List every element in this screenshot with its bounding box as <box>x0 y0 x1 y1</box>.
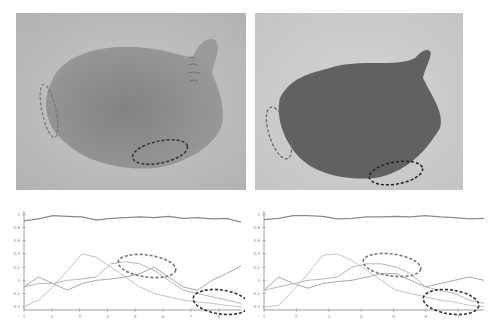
line-chart-left: 10.80.60.40.20-0.2-0.412345678 <box>10 205 245 325</box>
series-line-top <box>264 216 484 220</box>
chart-right: 10.80.60.40.20-0.2-0.41234567 <box>252 205 488 325</box>
y-tick-label: -0.2 <box>252 291 260 296</box>
series-line-series-a <box>264 254 484 307</box>
x-tick-label: 1 <box>23 314 26 319</box>
y-tick-label: 0.8 <box>14 225 21 230</box>
y-tick-label: 0.6 <box>254 238 261 243</box>
y-tick-label: -0.4 <box>12 304 20 309</box>
series-line-series-c <box>264 264 484 304</box>
photo-right-image <box>255 13 463 190</box>
line-chart-right: 10.80.60.40.20-0.2-0.41234567 <box>252 205 488 325</box>
series-line-series-b <box>264 274 484 291</box>
y-tick-label: 0 <box>257 278 260 283</box>
x-tick-label: 2 <box>295 314 298 319</box>
y-tick-label: 1 <box>17 212 20 217</box>
y-tick-label: -0.2 <box>12 291 20 296</box>
y-tick-label: 0 <box>17 278 20 283</box>
x-tick-label: 6 <box>162 314 165 319</box>
x-tick-label: 4 <box>360 314 363 319</box>
x-tick-label: 3 <box>78 314 81 319</box>
y-tick-label: 0.8 <box>254 225 261 230</box>
x-tick-label: 5 <box>134 314 137 319</box>
y-tick-label: 0.6 <box>14 238 21 243</box>
y-tick-label: -0.4 <box>252 304 260 309</box>
photo-right <box>255 13 463 190</box>
y-tick-label: 0.2 <box>14 265 21 270</box>
series-line-top <box>24 216 241 223</box>
dashed-ellipse-upper <box>362 250 422 280</box>
x-tick-label: 6 <box>424 314 427 319</box>
series-line-series-a <box>24 254 241 307</box>
x-tick-label: 2 <box>51 314 54 319</box>
x-tick-label: 5 <box>392 314 395 319</box>
y-tick-label: 1 <box>257 212 260 217</box>
chart-left: 10.80.60.40.20-0.2-0.412345678 <box>10 205 245 325</box>
x-tick-label: 1 <box>263 314 266 319</box>
photo-left-image <box>16 13 246 190</box>
series-line-series-b <box>24 266 241 290</box>
x-tick-label: 4 <box>106 314 109 319</box>
y-tick-label: 0.4 <box>14 251 21 256</box>
photo-left <box>16 13 246 190</box>
y-tick-label: 0.2 <box>254 265 261 270</box>
x-tick-label: 3 <box>327 314 330 319</box>
y-tick-label: 0.4 <box>254 251 261 256</box>
x-tick-label: 7 <box>190 314 193 319</box>
